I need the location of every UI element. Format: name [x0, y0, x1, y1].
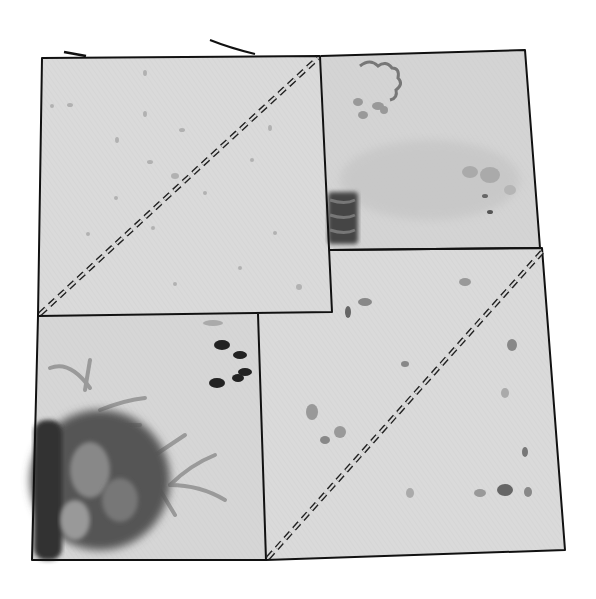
patch-bottom-left	[30, 314, 266, 560]
quilt-illustration	[0, 0, 596, 599]
patch-top-right	[321, 50, 540, 250]
dark-floral-edge	[328, 192, 358, 244]
